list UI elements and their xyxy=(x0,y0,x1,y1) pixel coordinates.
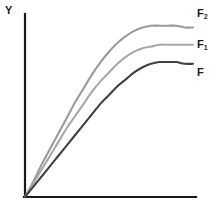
curves-group xyxy=(25,26,193,197)
figure-canvas: Y F2 F1 F xyxy=(0,0,218,214)
curve-label-f1: F1 xyxy=(197,39,208,50)
curve-label-f2: F2 xyxy=(197,8,208,19)
y-axis-label: Y xyxy=(5,5,12,16)
curve-f1 xyxy=(25,45,193,197)
curve-label-f-base: F xyxy=(197,66,204,78)
curve-label-f2-subscript: 2 xyxy=(204,13,208,20)
curve-label-f: F xyxy=(197,67,204,78)
curve-f2 xyxy=(25,26,193,197)
curve-label-f2-base: F xyxy=(197,7,204,19)
curve-f xyxy=(25,62,193,197)
axes-group xyxy=(24,14,196,197)
curve-label-f1-subscript: 1 xyxy=(204,44,208,51)
plot-area xyxy=(0,0,218,214)
curve-label-f1-base: F xyxy=(197,38,204,50)
